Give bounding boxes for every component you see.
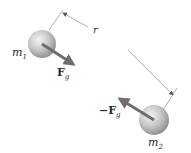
extension-line-1 — [49, 10, 63, 30]
mass-2-label: m2 — [148, 137, 163, 148]
extension-line-2 — [163, 88, 177, 110]
force-2-label: −Fg — [99, 105, 121, 116]
force-1-label: Fg — [57, 67, 69, 78]
distance-line-b — [128, 50, 173, 95]
distance-line-a — [63, 13, 88, 27]
mass-1-label: m1 — [12, 47, 27, 58]
diagram-canvas — [0, 0, 191, 153]
distance-label: r — [93, 25, 98, 35]
